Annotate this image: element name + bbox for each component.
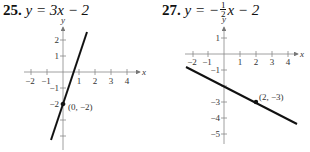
x-axis-label: x [299, 49, 304, 59]
point-label: (2, −3) [259, 92, 284, 102]
svg-text:2: 2 [254, 57, 259, 67]
x-tick-labels: −2 −1 1 2 3 4 [187, 57, 291, 67]
svg-text:−3: −3 [210, 97, 220, 107]
y-tick-labels: 1 −1 −3 −4 −5 [210, 33, 220, 139]
svg-text:−4: −4 [210, 113, 220, 123]
svg-text:−1: −1 [210, 65, 220, 75]
svg-text:1: 1 [238, 57, 243, 67]
point-2-neg3 [254, 100, 258, 104]
y-axis-label: y [221, 14, 226, 24]
graph-27-axes [185, 27, 298, 144]
svg-text:3: 3 [270, 57, 275, 67]
svg-text:4: 4 [286, 57, 291, 67]
svg-text:−2: −2 [187, 57, 197, 67]
svg-text:1: 1 [216, 33, 221, 43]
svg-text:−5: −5 [210, 129, 220, 139]
graph-27: x y −2 −1 1 2 3 4 1 −1 −3 −4 −5 (2, −3) [0, 0, 310, 152]
